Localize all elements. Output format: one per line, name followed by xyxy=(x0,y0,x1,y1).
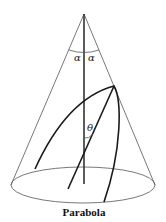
theta-label: θ xyxy=(87,122,93,133)
figure-caption: Parabola xyxy=(63,206,106,218)
alpha-right-label: α xyxy=(88,52,95,63)
parabola-axis-line xyxy=(68,86,114,189)
alpha-left-label: α xyxy=(74,52,81,63)
cone-left-side xyxy=(11,14,84,185)
cone-right-side xyxy=(84,14,155,185)
cone-parabola-diagram: α α θ Parabola xyxy=(0,0,166,222)
cone-base-ellipse xyxy=(11,167,155,203)
